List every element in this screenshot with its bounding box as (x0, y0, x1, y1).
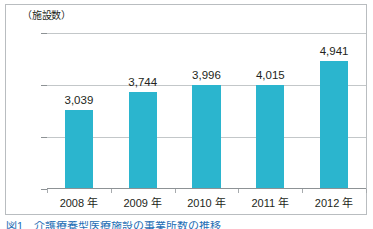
bar-value-label: 4,015 (256, 69, 285, 81)
x-axis-tick-label: 2008 年 (60, 194, 99, 210)
category-separator (238, 189, 239, 193)
x-axis-tick-label: 2012 年 (315, 194, 354, 210)
bar-value-label: 4,941 (320, 45, 349, 57)
plot-area (47, 33, 366, 189)
bar (192, 85, 220, 189)
bar-value-label: 3,039 (65, 94, 94, 106)
x-axis-line (47, 188, 366, 189)
category-separator (111, 189, 112, 193)
bar (129, 92, 157, 189)
bar (65, 110, 93, 189)
category-separator (302, 189, 303, 193)
bar (256, 85, 284, 189)
y-axis-tick (41, 85, 47, 86)
y-axis-tick (41, 137, 47, 138)
axis-end-tick (47, 189, 48, 193)
x-axis-tick-label: 2011 年 (251, 194, 289, 210)
x-axis-tick-label: 2009 年 (123, 194, 162, 210)
category-separator (175, 189, 176, 193)
gridline (47, 33, 366, 34)
bar-value-label: 3,744 (128, 76, 157, 88)
bar (320, 61, 348, 189)
bar-value-label: 3,996 (192, 69, 221, 81)
chart-figure: （施設数） 02,0004,0006,000 2008 年2009 年2010 … (0, 0, 373, 229)
x-axis-tick-label: 2010 年 (187, 194, 226, 210)
figure-caption: 図1 介護療養型医療施設の事業所数の推移 (6, 221, 306, 229)
axis-end-tick (366, 189, 367, 193)
y-axis-title: （施設数） (22, 7, 71, 22)
y-axis-tick (41, 33, 47, 34)
